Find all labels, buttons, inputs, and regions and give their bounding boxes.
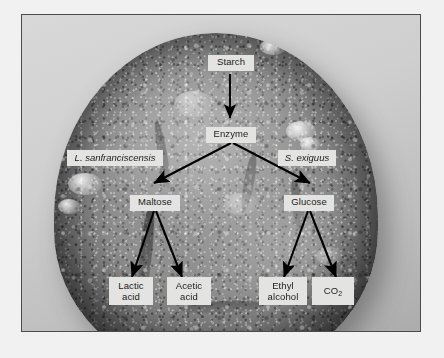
node-carbon-dioxide-subscript: 2	[338, 290, 342, 297]
node-starch: Starch	[208, 55, 254, 71]
node-lactic-acid: Lactic acid	[109, 277, 153, 305]
edge-glucose-ethyl-alcohol	[284, 211, 308, 277]
node-lactic-acid-line2: acid	[122, 291, 140, 302]
node-lactic-acid-line1: Lactic	[118, 280, 143, 291]
node-enzyme: Enzyme	[206, 127, 256, 143]
node-carbon-dioxide-formula: CO	[324, 285, 338, 296]
node-ethyl-alcohol: Ethyl alcohol	[259, 277, 307, 305]
bread-photograph: Starch Enzyme L. sanfranciscensis S. exi…	[21, 14, 421, 332]
organism-label-left: L. sanfranciscensis	[67, 150, 163, 166]
edge-maltose-acetic-acid	[156, 211, 182, 277]
node-ethyl-alcohol-line2: alcohol	[268, 291, 299, 302]
node-acetic-acid: Acetic acid	[167, 277, 211, 305]
edge-maltose-lactic-acid	[132, 211, 154, 277]
node-carbon-dioxide: CO2	[312, 277, 354, 305]
node-acetic-acid-line2: acid	[180, 291, 198, 302]
edge-enzyme-maltose	[154, 143, 231, 183]
node-glucose: Glucose	[284, 195, 334, 211]
organism-label-right: S. exiguus	[278, 150, 336, 166]
edge-glucose-carbon-dioxide	[310, 211, 336, 277]
node-ethyl-alcohol-line1: Ethyl	[272, 280, 294, 291]
node-acetic-acid-line1: Acetic	[176, 280, 202, 291]
figure-panel: Starch Enzyme L. sanfranciscensis S. exi…	[0, 0, 444, 358]
node-maltose: Maltose	[130, 195, 180, 211]
